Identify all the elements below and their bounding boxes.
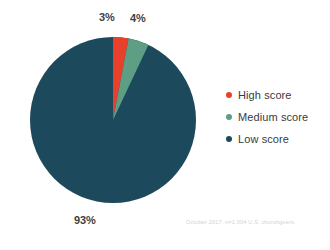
chart-legend: High score Medium score Low score bbox=[226, 84, 330, 150]
legend-dot-icon-high-score bbox=[226, 92, 232, 98]
legend-item-high-score[interactable]: High score bbox=[226, 84, 330, 106]
chart-source-footnote: October 2017. n=1,004 U.S. churchgoers. bbox=[186, 219, 296, 225]
slice-label-medium-score: 4% bbox=[130, 12, 146, 24]
pie-svg bbox=[30, 37, 196, 203]
legend-dot-icon-low-score bbox=[226, 136, 232, 142]
slice-label-high-score: 3% bbox=[99, 11, 115, 23]
legend-label-high-score: High score bbox=[238, 89, 292, 101]
pie-chart-figure: 3% 4% 93% High score Medium score Low sc… bbox=[0, 0, 330, 250]
legend-item-low-score[interactable]: Low score bbox=[226, 128, 330, 150]
legend-dot-icon-medium-score bbox=[226, 114, 232, 120]
slice-label-low-score: 93% bbox=[74, 214, 96, 226]
legend-label-low-score: Low score bbox=[238, 133, 289, 145]
legend-item-medium-score[interactable]: Medium score bbox=[226, 106, 330, 128]
legend-label-medium-score: Medium score bbox=[238, 111, 308, 123]
pie-chart-graphic bbox=[30, 37, 196, 203]
